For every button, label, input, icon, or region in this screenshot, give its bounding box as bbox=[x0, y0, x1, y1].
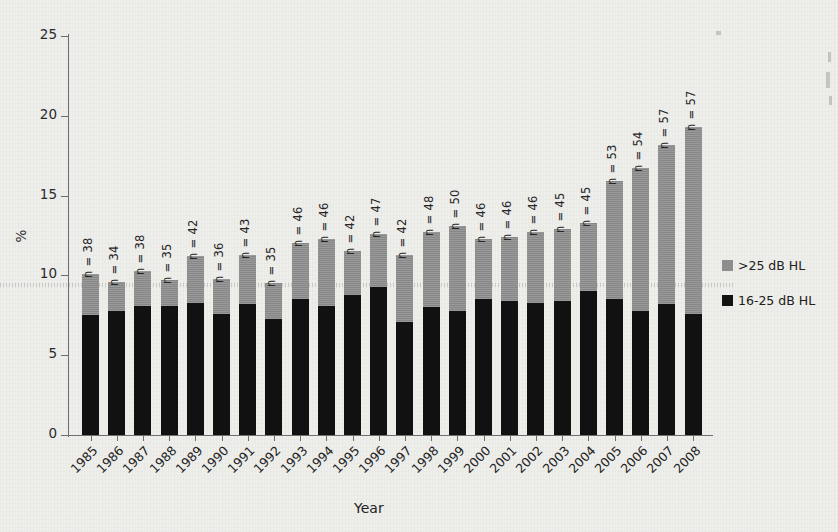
legend-item[interactable]: 16-25 dB HL bbox=[722, 293, 834, 308]
bar-count-annotation: n = 50 bbox=[448, 189, 462, 230]
legend-label: 16-25 dB HL bbox=[738, 293, 815, 308]
bar-segment-over-25-db[interactable] bbox=[554, 229, 571, 301]
bar-segment-over-25-db[interactable] bbox=[187, 256, 204, 302]
bar-segment-over-25-db[interactable] bbox=[82, 274, 99, 315]
bar-segment-over-25-db[interactable] bbox=[423, 232, 440, 307]
bar-segment-over-25-db[interactable] bbox=[239, 255, 256, 304]
bar-segment-over-25-db[interactable] bbox=[527, 232, 544, 302]
bar-segment-16-25-db[interactable] bbox=[318, 306, 335, 435]
bar-count-annotation: n = 38 bbox=[81, 237, 95, 278]
bar-group[interactable] bbox=[213, 0, 230, 435]
legend-item[interactable]: >25 dB HL bbox=[722, 258, 834, 273]
bar-segment-16-25-db[interactable] bbox=[370, 287, 387, 435]
bar-segment-over-25-db[interactable] bbox=[134, 271, 151, 306]
bar-segment-16-25-db[interactable] bbox=[423, 307, 440, 435]
bar-segment-16-25-db[interactable] bbox=[501, 301, 518, 435]
x-tick bbox=[195, 435, 196, 441]
bar-segment-over-25-db[interactable] bbox=[658, 145, 675, 305]
bar-segment-over-25-db[interactable] bbox=[318, 239, 335, 306]
bar-segment-16-25-db[interactable] bbox=[527, 303, 544, 435]
bar-count-annotation: n = 42 bbox=[343, 215, 357, 256]
x-tick bbox=[431, 435, 432, 441]
bar-segment-over-25-db[interactable] bbox=[213, 279, 230, 314]
legend-swatch-icon bbox=[722, 295, 733, 306]
bar-segment-16-25-db[interactable] bbox=[292, 299, 309, 435]
x-tick bbox=[379, 435, 380, 441]
bar-count-annotation: n = 57 bbox=[657, 108, 671, 149]
bar-segment-over-25-db[interactable] bbox=[370, 234, 387, 287]
y-tick bbox=[61, 435, 68, 436]
x-tick bbox=[326, 435, 327, 441]
bar-count-annotation: n = 35 bbox=[160, 244, 174, 285]
bar-segment-16-25-db[interactable] bbox=[685, 314, 702, 435]
bar-count-annotation: n = 47 bbox=[369, 197, 383, 238]
bar-segment-16-25-db[interactable] bbox=[213, 314, 230, 435]
bar-count-annotation: n = 36 bbox=[212, 242, 226, 283]
x-tick bbox=[117, 435, 118, 441]
bar-segment-over-25-db[interactable] bbox=[396, 255, 413, 322]
bar-segment-16-25-db[interactable] bbox=[344, 295, 361, 435]
bar-group[interactable] bbox=[134, 0, 151, 435]
bar-segment-16-25-db[interactable] bbox=[606, 299, 623, 435]
bar-segment-16-25-db[interactable] bbox=[632, 311, 649, 435]
bar-segment-over-25-db[interactable] bbox=[108, 282, 125, 311]
bar-segment-over-25-db[interactable] bbox=[580, 223, 597, 292]
bar-count-annotation: n = 34 bbox=[107, 245, 121, 286]
bar-group[interactable] bbox=[187, 0, 204, 435]
bar-segment-over-25-db[interactable] bbox=[292, 243, 309, 299]
bar-segment-16-25-db[interactable] bbox=[161, 306, 178, 435]
bar-count-annotation: n = 38 bbox=[133, 234, 147, 275]
bar-group[interactable] bbox=[108, 0, 125, 435]
bar-segment-16-25-db[interactable] bbox=[239, 304, 256, 435]
bar-segment-16-25-db[interactable] bbox=[580, 291, 597, 435]
bar-group[interactable] bbox=[161, 0, 178, 435]
bar-count-annotation: n = 45 bbox=[579, 186, 593, 227]
bar-count-annotation: n = 57 bbox=[684, 90, 698, 131]
x-tick bbox=[457, 435, 458, 441]
bar-segment-16-25-db[interactable] bbox=[658, 304, 675, 435]
bar-count-annotation: n = 46 bbox=[474, 202, 488, 243]
bar-count-annotation: n = 48 bbox=[422, 196, 436, 237]
bar-group[interactable] bbox=[265, 0, 282, 435]
x-tick bbox=[667, 435, 668, 441]
bar-segment-16-25-db[interactable] bbox=[134, 306, 151, 435]
bar-segment-16-25-db[interactable] bbox=[449, 311, 466, 435]
x-tick bbox=[405, 435, 406, 441]
bar-chart: 2520151050 % n = 38n = 34n = 38n = 35n =… bbox=[0, 0, 838, 532]
bar-group[interactable] bbox=[606, 0, 623, 435]
bar-segment-over-25-db[interactable] bbox=[344, 251, 361, 294]
bar-segment-over-25-db[interactable] bbox=[685, 127, 702, 314]
bar-segment-16-25-db[interactable] bbox=[82, 315, 99, 435]
x-tick bbox=[169, 435, 170, 441]
bar-segment-over-25-db[interactable] bbox=[265, 283, 282, 318]
bar-group[interactable] bbox=[685, 0, 702, 435]
bar-segment-16-25-db[interactable] bbox=[475, 299, 492, 435]
x-tick bbox=[274, 435, 275, 441]
x-tick bbox=[536, 435, 537, 441]
bar-segment-16-25-db[interactable] bbox=[108, 311, 125, 435]
bar-segment-over-25-db[interactable] bbox=[449, 226, 466, 311]
bar-group[interactable] bbox=[632, 0, 649, 435]
x-tick bbox=[300, 435, 301, 441]
bar-segment-over-25-db[interactable] bbox=[501, 237, 518, 301]
bar-segment-over-25-db[interactable] bbox=[475, 239, 492, 300]
bar-segment-over-25-db[interactable] bbox=[606, 181, 623, 299]
x-tick bbox=[484, 435, 485, 441]
bar-count-annotation: n = 43 bbox=[238, 218, 252, 259]
bar-segment-over-25-db[interactable] bbox=[161, 280, 178, 306]
bar-segment-16-25-db[interactable] bbox=[187, 303, 204, 435]
x-tick bbox=[353, 435, 354, 441]
bar-count-annotation: n = 45 bbox=[553, 192, 567, 233]
x-tick bbox=[562, 435, 563, 441]
bar-count-annotation: n = 42 bbox=[186, 220, 200, 261]
bar-segment-over-25-db[interactable] bbox=[632, 168, 649, 310]
bar-segment-16-25-db[interactable] bbox=[554, 301, 571, 435]
legend-swatch-icon bbox=[722, 260, 733, 271]
chart-legend: >25 dB HL16-25 dB HL bbox=[722, 258, 834, 328]
scan-speck bbox=[716, 31, 721, 35]
bar-segment-16-25-db[interactable] bbox=[265, 319, 282, 436]
bar-group[interactable] bbox=[82, 0, 99, 435]
bar-count-annotation: n = 53 bbox=[605, 145, 619, 186]
bar-group[interactable] bbox=[658, 0, 675, 435]
bar-segment-16-25-db[interactable] bbox=[396, 322, 413, 435]
